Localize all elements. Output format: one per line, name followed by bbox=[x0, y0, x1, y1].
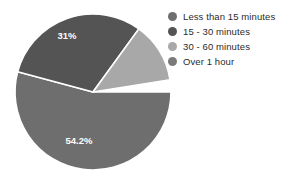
pie-slices-group bbox=[15, 14, 180, 177]
legend-item-label: Less than 15 minutes bbox=[183, 12, 275, 22]
circle-swatch-icon bbox=[168, 42, 177, 51]
circle-swatch-icon bbox=[168, 57, 177, 66]
pie-plot-area: 54.2%31% bbox=[0, 0, 180, 177]
circle-swatch-icon bbox=[168, 12, 177, 21]
legend-item-less-than-15-minutes[interactable]: Less than 15 minutes bbox=[168, 9, 295, 24]
legend-item-15-30-minutes[interactable]: 15 - 30 minutes bbox=[168, 24, 295, 39]
legend-item-label: 30 - 60 minutes bbox=[183, 42, 250, 52]
pie-svg: 54.2%31% bbox=[0, 0, 180, 177]
chart-legend: Less than 15 minutes 15 - 30 minutes 30 … bbox=[168, 9, 295, 69]
circle-swatch-icon bbox=[168, 27, 177, 36]
legend-item-label: Over 1 hour bbox=[183, 57, 234, 67]
legend-item-over-1-hour[interactable]: Over 1 hour bbox=[168, 54, 295, 69]
pie-slice-value-label: 54.2% bbox=[66, 135, 93, 146]
pie-chart-figure: 54.2%31% Less than 15 minutes 15 - 30 mi… bbox=[0, 0, 295, 177]
legend-item-30-60-minutes[interactable]: 30 - 60 minutes bbox=[168, 39, 295, 54]
pie-slice-value-label: 31% bbox=[57, 30, 77, 41]
legend-item-label: 15 - 30 minutes bbox=[183, 27, 250, 37]
